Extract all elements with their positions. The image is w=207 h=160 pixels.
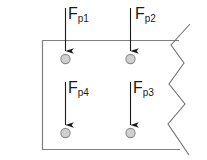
diagram-canvas (0, 0, 207, 160)
force-label-fp4-base: F (68, 79, 78, 96)
force-label-fp2-base: F (135, 5, 145, 22)
load-point-fp1 (61, 54, 70, 63)
force-arrows (66, 8, 131, 125)
force-label-fp2: Fp2 (135, 6, 156, 22)
load-point-fp3 (126, 128, 135, 137)
force-label-fp1: Fp1 (68, 6, 89, 22)
force-label-fp1-base: F (68, 5, 78, 22)
load-point-fp4 (61, 128, 70, 137)
force-label-fp3: Fp3 (133, 80, 154, 96)
load-point-nodes (61, 54, 135, 137)
zigzag-break-line (168, 24, 190, 155)
force-label-fp1-sub: p1 (78, 13, 89, 24)
force-label-fp2-sub: p2 (145, 13, 156, 24)
load-point-fp2 (126, 54, 135, 63)
force-label-fp4-sub: p4 (78, 87, 89, 98)
force-label-fp4: Fp4 (68, 80, 89, 96)
force-diagram: Fp1 Fp2 Fp4 Fp3 (0, 0, 207, 160)
force-label-fp3-base: F (133, 79, 143, 96)
force-label-fp3-sub: p3 (143, 87, 154, 98)
